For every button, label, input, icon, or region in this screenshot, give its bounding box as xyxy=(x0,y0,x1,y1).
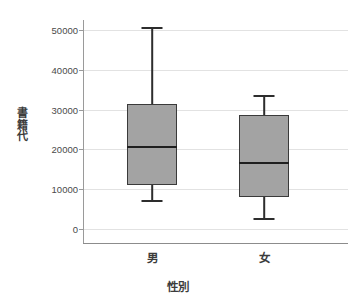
y-axis-tick-label: 30000 xyxy=(34,104,78,115)
y-axis-tick-label: 20000 xyxy=(34,144,78,155)
y-axis-title-char-1: 書 xyxy=(12,108,32,120)
x-axis-tick-labels: 男女 xyxy=(83,0,348,307)
x-axis-title: 性別 xyxy=(0,278,356,294)
boxplot-chart: 書 籍 代 01000020000300004000050000 男女 性別 xyxy=(0,0,356,307)
y-axis-title-char-3: 代 xyxy=(12,131,32,143)
x-axis-tick-label: 男 xyxy=(147,249,158,265)
x-axis-tick-label: 女 xyxy=(259,249,270,265)
y-axis-title: 書 籍 代 xyxy=(12,108,32,143)
y-axis-tick-labels: 01000020000300004000050000 xyxy=(30,0,78,307)
y-axis-tick-label: 40000 xyxy=(34,64,78,75)
y-axis-tick-label: 50000 xyxy=(34,25,78,36)
y-axis-tick-label: 0 xyxy=(34,224,78,235)
y-axis-tick-label: 10000 xyxy=(34,184,78,195)
